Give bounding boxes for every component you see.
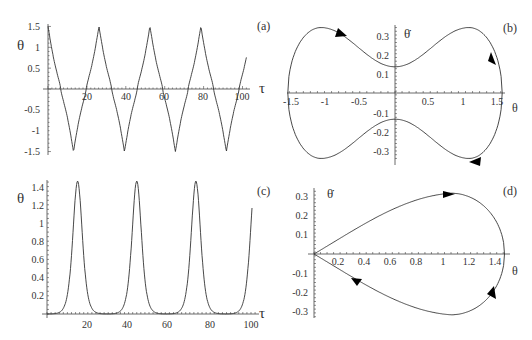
panel-d-ytick: -0.3 (292, 306, 308, 317)
panel-a-ytick: 1 (35, 42, 40, 53)
panel-a: 1.5 1 0.5 -0.5 -1 -1.5 20 40 60 80 100 θ… (17, 19, 270, 157)
figure: 1.5 1 0.5 -0.5 -1 -1.5 20 40 60 80 100 θ… (0, 0, 532, 340)
panel-c-xtick: 60 (162, 319, 172, 330)
panel-b-ytick: -0.2 (373, 127, 389, 138)
panel-d-xtick: 0.6 (384, 256, 397, 267)
panel-b-xtick: 1 (461, 96, 466, 107)
panel-c-xlabel: τ (259, 305, 265, 321)
panel-c-xtick: 20 (82, 319, 92, 330)
panel-c-ytick: 1.4 (32, 182, 45, 193)
panel-b-xlabel: θ (512, 101, 518, 115)
panel-a-ytick: 1.5 (28, 21, 41, 32)
panel-b-ylabel: θ̇ (404, 26, 411, 41)
panel-a-ytick: 0.5 (28, 63, 41, 74)
panel-b-xtick: -1 (321, 96, 329, 107)
panel-d-xtick: 1.2 (463, 256, 476, 267)
panel-b-ytick: 0.1 (377, 69, 390, 80)
panel-b-xtick: -1.5 (283, 96, 299, 107)
panel-a-xlabel: τ (259, 80, 265, 96)
panel-c-ylabel: θ (17, 190, 24, 206)
panel-c-ytick: 0.6 (32, 254, 45, 265)
panel-a-label: (a) (257, 19, 270, 33)
panel-d-xtick: 1 (441, 256, 446, 267)
panel-d-ytick: 0.1 (296, 229, 309, 240)
panel-c-ytick: 1.2 (32, 200, 45, 211)
panel-d-xtick: 0.4 (358, 256, 371, 267)
panel-b-ytick: 0.3 (377, 31, 390, 42)
panel-b-ytick: 0.2 (377, 50, 390, 61)
panel-c-xtick: 80 (205, 319, 215, 330)
panel-a-ytick: -1.5 (24, 146, 40, 157)
panel-b: 0.3 0.2 0.1 -0.1 -0.2 -0.3 -1.5 -1 -0.5 … (283, 21, 518, 166)
panel-c: 1.4 1.2 1 0.8 0.6 0.4 0.2 20 40 60 80 10… (17, 180, 270, 330)
panel-c-minor-ticks (47, 182, 255, 314)
panel-c-curve (47, 181, 252, 314)
panel-d-ytick: 0.3 (296, 191, 309, 202)
panel-b-xtick: 0.5 (422, 96, 435, 107)
panel-a-ytick: -0.5 (24, 104, 40, 115)
direction-arrow-icon (443, 191, 455, 198)
panel-c-ytick: 0.4 (32, 272, 45, 283)
panel-c-xtick: 40 (122, 319, 132, 330)
panel-c-ytick: 1 (39, 218, 44, 229)
panel-c-ytick: 0.8 (32, 236, 45, 247)
panel-d-ytick: -0.1 (292, 268, 308, 279)
panel-d-label: (d) (503, 184, 517, 198)
panel-a-ylabel: θ (17, 37, 24, 53)
panel-d-xlabel: θ (512, 264, 518, 278)
panel-d-xtick: 0.8 (410, 256, 423, 267)
panel-b-xtick: -0.5 (351, 96, 367, 107)
panel-c-xtick: 100 (244, 319, 259, 330)
panel-d: 0.3 0.2 0.1 -0.1 -0.2 -0.3 0.2 0.4 0.6 0… (292, 184, 518, 318)
panel-d-xtick: 1.4 (489, 256, 502, 267)
panel-d-ylabel: θ̇ (327, 186, 334, 201)
panel-c-label: (c) (257, 184, 270, 198)
direction-arrow-icon (488, 52, 496, 65)
panel-a-xtick: 80 (198, 91, 208, 102)
panel-b-label: (b) (503, 21, 517, 35)
panel-c-ytick: 0.2 (32, 290, 45, 301)
panel-b-ytick: -0.1 (373, 108, 389, 119)
panel-b-ytick: -0.3 (373, 146, 389, 157)
panel-d-ytick: 0.2 (296, 210, 309, 221)
panel-d-ytick: -0.2 (292, 287, 308, 298)
panel-a-ytick: -1 (32, 125, 40, 136)
direction-arrow-icon (335, 28, 347, 37)
panel-a-xtick: 40 (121, 91, 131, 102)
